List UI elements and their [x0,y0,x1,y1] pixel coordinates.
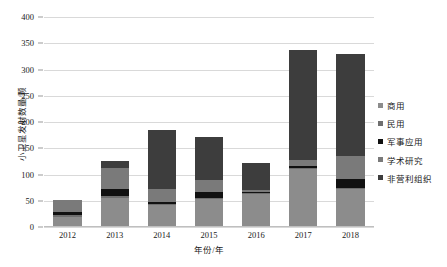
legend-label: 非营利组织 [387,172,432,184]
y-tick-mark [38,200,43,201]
bar-segment[interactable] [242,194,270,227]
y-tick-mark [38,174,43,175]
y-tick-mark [38,148,43,149]
x-tick-label: 2012 [59,230,76,240]
y-tick-mark [38,227,43,228]
legend-swatch-icon [378,139,383,144]
y-tick-label: 400 [0,12,34,22]
y-tick-mark [38,95,43,96]
x-tick-label: 2014 [153,230,170,240]
bar-segment[interactable] [148,205,176,227]
y-tick-label: 100 [0,170,34,180]
y-tick-label: 350 [0,38,34,48]
bar-segment[interactable] [289,50,317,160]
y-tick-label: 200 [0,117,34,127]
bar-group[interactable] [289,50,317,227]
bars-layer [44,17,374,227]
legend-item[interactable]: 民用 [378,117,432,129]
y-tick-label: 0 [0,222,34,232]
bar-group[interactable] [336,54,364,227]
bar-segment[interactable] [53,200,81,212]
y-tick-mark [38,69,43,70]
x-axis-ticks: 2012201320142015201620172018 [44,230,374,244]
legend-item[interactable]: 非营利组织 [378,172,432,184]
bar-segment[interactable] [195,180,223,192]
legend-label: 军事应用 [387,135,423,147]
legend-item[interactable]: 军事应用 [378,135,432,147]
x-axis-title: 年份/年 [44,243,374,255]
x-tick-label: 2013 [106,230,123,240]
x-tick-label: 2018 [342,230,359,240]
bar-group[interactable] [148,130,176,227]
legend-swatch-icon [378,103,383,108]
bar-segment[interactable] [336,54,364,155]
bar-segment[interactable] [336,156,364,180]
bar-group[interactable] [195,137,223,227]
x-tick-label: 2015 [201,230,218,240]
stacked-bar-chart: 小卫星发射数量/颗 050100150200250300350400 20122… [0,0,447,267]
bar-segment[interactable] [101,189,129,196]
bar-segment[interactable] [101,161,129,168]
y-tick-label: 50 [0,196,34,206]
x-tick-label: 2017 [295,230,312,240]
bar-group[interactable] [53,200,81,227]
legend-swatch-icon [378,175,383,180]
y-tick-label: 150 [0,143,34,153]
bar-segment[interactable] [336,189,364,227]
bar-segment[interactable] [289,169,317,227]
bar-group[interactable] [101,161,129,227]
x-tick-label: 2016 [248,230,265,240]
y-tick-mark [38,43,43,44]
bar-segment[interactable] [195,137,223,181]
legend-label: 学术研究 [387,154,423,166]
bar-segment[interactable] [101,168,129,190]
bar-segment[interactable] [101,198,129,227]
gridline [44,227,374,228]
y-tick-mark [38,17,43,18]
legend-item[interactable]: 商用 [378,99,432,111]
bar-segment[interactable] [242,163,270,189]
y-tick-mark [38,122,43,123]
bar-segment[interactable] [148,130,176,189]
legend-label: 商用 [387,99,405,111]
plot-area [44,17,374,227]
bar-segment[interactable] [336,179,364,187]
legend: 商用民用军事应用学术研究非营利组织 [378,99,432,184]
x-axis-line [44,226,374,227]
bar-group[interactable] [242,163,270,227]
legend-swatch-icon [378,121,383,126]
bar-segment[interactable] [148,189,176,202]
y-tick-label: 300 [0,65,34,75]
legend-label: 民用 [387,117,405,129]
y-tick-label: 250 [0,91,34,101]
legend-swatch-icon [378,157,383,162]
legend-item[interactable]: 学术研究 [378,154,432,166]
bar-segment[interactable] [195,199,223,227]
